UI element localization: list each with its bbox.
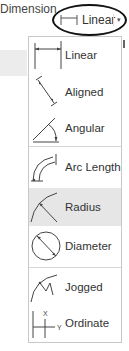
arc-length-dimension-icon — [29, 151, 65, 183]
menu-item-label: Ordinate — [65, 317, 109, 329]
scrollbar[interactable] — [123, 40, 125, 48]
menu-item-arc-length[interactable]: Arc Length — [29, 148, 121, 186]
menu-item-label: Arc Length — [65, 161, 121, 173]
linear-dimension-icon — [60, 14, 78, 26]
diameter-dimension-icon — [29, 230, 65, 262]
ordinate-x-label: X — [43, 310, 48, 317]
menu-item-label: Radius — [65, 201, 101, 213]
menu-separator — [29, 267, 121, 268]
menu-item-label: Linear — [65, 49, 97, 61]
menu-item-radius[interactable]: Radius — [29, 188, 121, 226]
ordinate-y-label: Y — [57, 324, 62, 331]
menu-item-jogged[interactable]: Jogged — [29, 269, 121, 305]
angular-dimension-icon — [29, 112, 65, 144]
menu-item-aligned[interactable]: Aligned — [29, 74, 121, 110]
aligned-dimension-icon — [29, 76, 65, 108]
menu-item-label: Angular — [65, 122, 105, 134]
menu-item-label: Jogged — [65, 281, 103, 293]
radius-dimension-icon — [29, 191, 65, 223]
dimension-menu: Linear Aligned Angular Arc Length — [28, 36, 122, 343]
menu-separator — [29, 146, 121, 147]
menu-item-label: Diameter — [65, 240, 112, 252]
ordinate-dimension-icon: X Y — [29, 307, 65, 339]
dropdown-selected-label: Linear — [82, 13, 115, 27]
dimension-dropdown[interactable]: Linear ▾ — [60, 10, 124, 30]
chevron-down-icon[interactable]: ▾ — [113, 14, 124, 26]
jogged-dimension-icon — [29, 271, 65, 303]
panel-title: Dimension — [0, 2, 57, 16]
menu-item-ordinate[interactable]: X Y Ordinate — [29, 305, 121, 341]
menu-item-label: Aligned — [65, 86, 103, 98]
linear-dimension-icon — [29, 39, 65, 71]
menu-item-diameter[interactable]: Diameter — [29, 227, 121, 265]
menu-item-linear[interactable]: Linear — [29, 37, 121, 73]
ribbon-strip — [0, 50, 27, 76]
menu-item-angular[interactable]: Angular — [29, 110, 121, 146]
